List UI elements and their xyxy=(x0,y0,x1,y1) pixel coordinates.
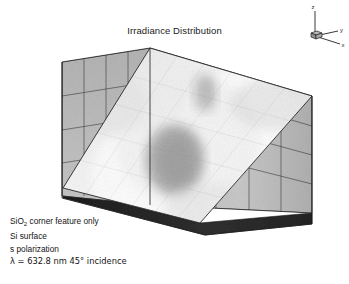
irradiance-figure: Irradiance Distribution z y x xyxy=(0,0,349,284)
caption-line-2: Si surface xyxy=(10,230,127,243)
caption-line-1-prefix: SiO xyxy=(10,216,24,226)
caption-line-3: s polarization xyxy=(10,243,127,256)
caption-line-1-suffix: corner feature only xyxy=(27,216,98,226)
caption-line-1: SiO2 corner feature only xyxy=(10,215,127,230)
figure-caption: SiO2 corner feature only Si surface s po… xyxy=(10,215,127,268)
caption-line-4: λ = 632.8 nm 45° incidence xyxy=(10,255,127,268)
